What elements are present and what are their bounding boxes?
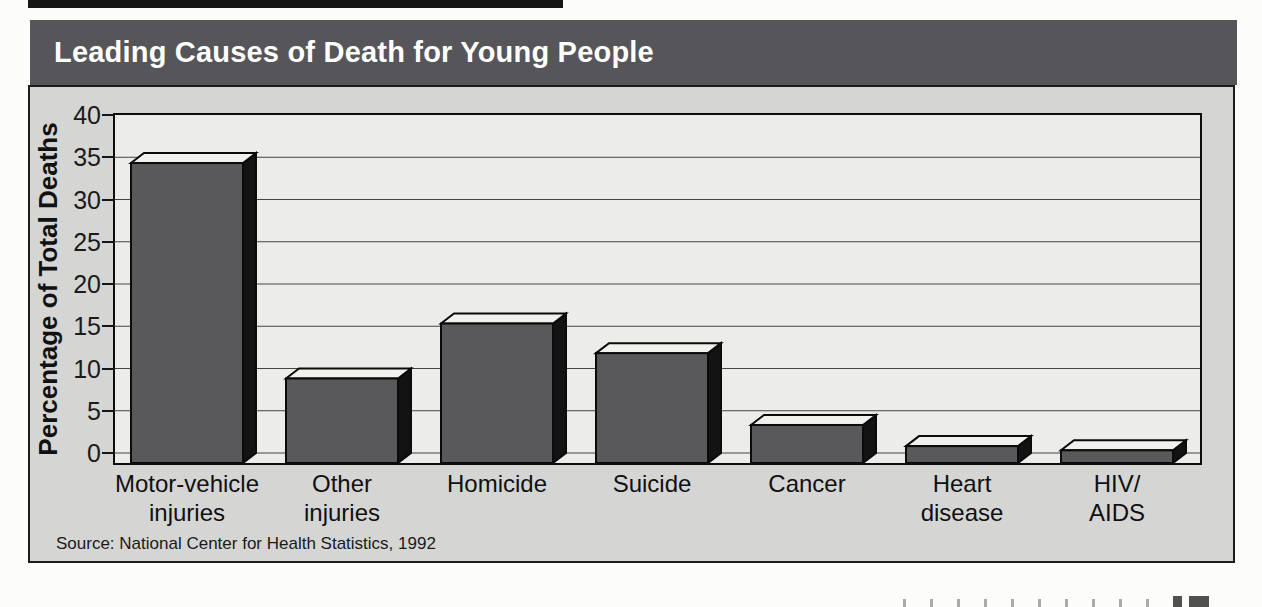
bar-top-face <box>131 153 256 163</box>
category-label: Other injuries <box>257 469 427 527</box>
y-tick-mark <box>102 241 115 243</box>
category-label: Homicide <box>412 469 582 498</box>
bar-front-face <box>131 163 243 463</box>
bar-front-face <box>596 353 708 463</box>
category-label: Suicide <box>567 469 737 498</box>
y-tick-mark <box>102 368 115 370</box>
y-tick-label: 10 <box>37 355 101 383</box>
y-tick-label: 25 <box>37 228 101 256</box>
bar-front-face <box>906 446 1018 463</box>
y-tick-label: 40 <box>37 101 101 129</box>
bar-side-face <box>243 153 256 463</box>
clipped-page-text <box>903 599 1165 607</box>
y-tick-mark <box>102 325 115 327</box>
y-tick-mark <box>102 199 115 201</box>
category-label: HIV/ AIDS <box>1032 469 1202 527</box>
bar-side-face <box>398 369 411 464</box>
y-tick-mark <box>102 114 115 116</box>
bar-top-face <box>1061 440 1186 450</box>
y-tick-label: 35 <box>37 143 101 171</box>
chart-plot <box>113 113 1202 465</box>
y-tick-label: 20 <box>37 270 101 298</box>
bar-side-face <box>708 343 721 463</box>
chart-title-bar: Leading Causes of Death for Young People <box>30 20 1237 85</box>
y-tick-mark <box>102 156 115 158</box>
bar-front-face <box>1061 450 1173 463</box>
scan-edge-strip <box>28 0 563 8</box>
y-tick-label: 30 <box>37 186 101 214</box>
bar-top-face <box>906 436 1031 446</box>
y-tick-label: 15 <box>37 312 101 340</box>
bar-top-face <box>286 369 411 379</box>
category-label: Heart disease <box>877 469 1047 527</box>
bar-front-face <box>286 379 398 464</box>
bar-front-face <box>441 324 553 463</box>
clipped-page-text-bold <box>1173 596 1221 607</box>
bar-top-face <box>751 415 876 425</box>
bar-top-face <box>596 343 721 353</box>
bar-side-face <box>553 314 566 463</box>
bar-front-face <box>751 425 863 463</box>
source-note: Source: National Center for Health Stati… <box>56 534 436 554</box>
y-tick-mark <box>102 410 115 412</box>
y-tick-mark <box>102 283 115 285</box>
y-tick-label: 5 <box>37 397 101 425</box>
bar-top-face <box>441 314 566 324</box>
chart-title: Leading Causes of Death for Young People <box>30 20 1237 85</box>
y-tick-mark <box>102 452 115 454</box>
category-label: Motor-vehicle injuries <box>102 469 272 527</box>
figure-page: Leading Causes of Death for Young People… <box>0 0 1262 607</box>
category-label: Cancer <box>722 469 892 498</box>
y-tick-label: 0 <box>37 439 101 467</box>
chart-svg <box>115 115 1200 463</box>
